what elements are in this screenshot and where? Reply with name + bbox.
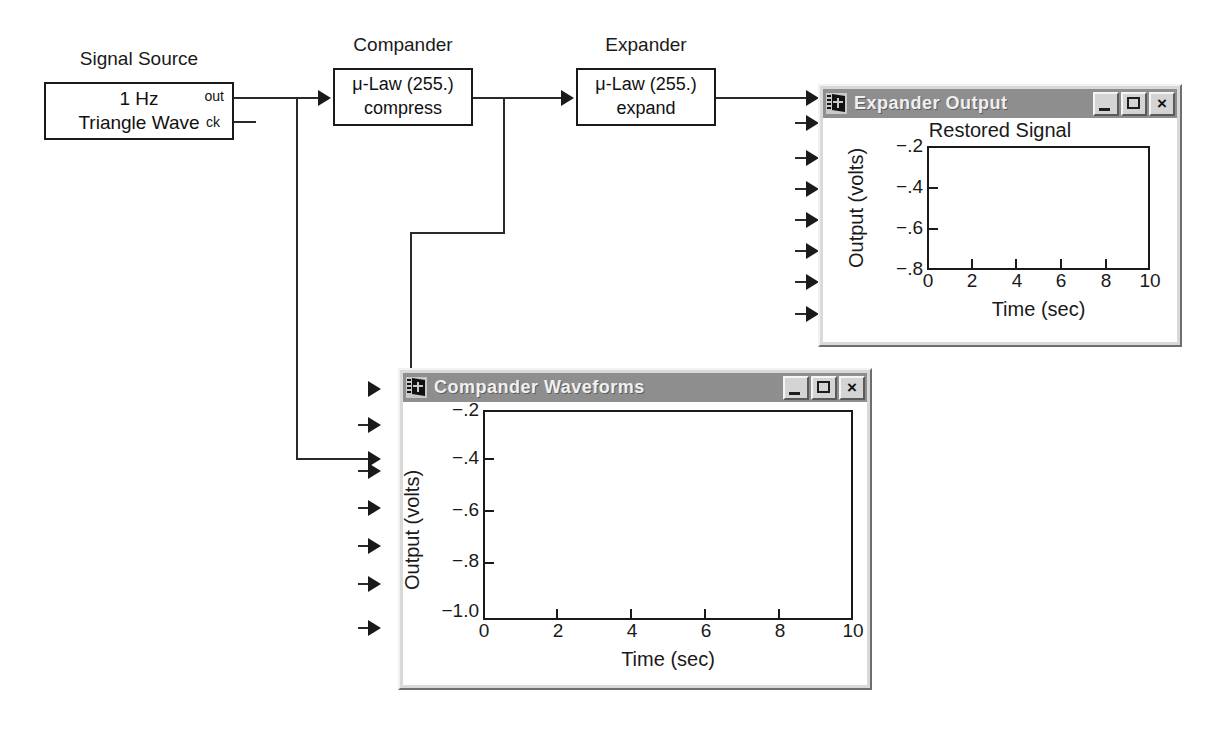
expander-line1: μ-Law (255.) xyxy=(578,74,714,95)
close-icon: × xyxy=(841,378,863,398)
compander-caption: Compander xyxy=(333,34,473,56)
signal-source-caption: Signal Source xyxy=(44,48,234,70)
canvas: Signal Source 1 Hz Triangle Wave out ck … xyxy=(0,0,1224,749)
window-compander-waveforms[interactable]: Compander Waveforms × −.2 −.4 −.6 xyxy=(398,368,872,690)
maximize-button[interactable] xyxy=(1121,92,1147,116)
plot-restored-signal: Restored Signal −.2 −.4 −.6 −.8 xyxy=(823,118,1177,342)
xtick-mark xyxy=(1015,259,1017,268)
signal-source-line2: Triangle Wave xyxy=(46,112,232,134)
wire-compander-branch-vertical-1 xyxy=(503,97,505,232)
xtick-label: 2 xyxy=(538,620,578,642)
plot-client-area-compander-waveforms: −.2 −.4 −.6 −.8 −1.0 0 2 xyxy=(403,402,867,685)
arrowhead-compander-window-in-1 xyxy=(368,381,381,397)
xtick-mark xyxy=(971,259,973,268)
titlebar-compander-waveforms[interactable]: Compander Waveforms × xyxy=(403,373,867,402)
expander-caption: Expander xyxy=(576,34,716,56)
ytick-label: −.2 xyxy=(417,402,479,421)
xtick-label: 8 xyxy=(760,620,800,642)
wire-compander-to-expander xyxy=(473,97,563,99)
plot-compander-waveforms: −.2 −.4 −.6 −.8 −1.0 0 2 xyxy=(403,402,867,685)
x-axis-label: Time (sec) xyxy=(927,298,1150,321)
y-axis-label: Output (volts) xyxy=(845,148,868,268)
cw-input-arrow-6 xyxy=(368,538,381,554)
xtick-label: 2 xyxy=(952,270,992,292)
app-window-icon xyxy=(826,93,847,114)
close-button[interactable]: × xyxy=(1149,92,1175,116)
axes-box xyxy=(483,410,853,620)
app-window-icon xyxy=(406,377,427,398)
window-inner: Expander Output × Restored Signal −.2 xyxy=(823,89,1177,342)
ytick-mark xyxy=(929,228,938,230)
ytick-label: −.8 xyxy=(417,550,479,572)
xtick-mark xyxy=(1060,259,1062,268)
compander-line2: compress xyxy=(335,98,471,119)
x-axis-label: Time (sec) xyxy=(483,648,853,671)
window-title-compander-waveforms: Compander Waveforms xyxy=(434,377,783,398)
y-axis-label: Output (volts) xyxy=(403,470,424,590)
xtick-label: 0 xyxy=(464,620,504,642)
axes-box xyxy=(927,146,1150,270)
ytick-label: −.2 xyxy=(863,135,923,157)
wire-compander-branch-horizontal xyxy=(410,232,505,234)
xtick-label: 4 xyxy=(612,620,652,642)
xtick-mark xyxy=(556,609,558,618)
xtick-mark xyxy=(1105,259,1107,268)
ytick-label: −.6 xyxy=(417,499,479,521)
wire-source-branch-to-compander-window xyxy=(296,458,370,460)
expander-block[interactable]: μ-Law (255.) expand xyxy=(576,68,716,126)
port-ck-label: ck xyxy=(206,114,220,130)
cw-input-arrow-7 xyxy=(368,576,381,592)
ytick-mark xyxy=(929,187,938,189)
xtick-label: 10 xyxy=(833,620,867,642)
plot-client-area-expander-output: Restored Signal −.2 −.4 −.6 −.8 xyxy=(823,118,1177,342)
ytick-label: −1.0 xyxy=(411,600,479,622)
window-expander-output[interactable]: Expander Output × Restored Signal −.2 xyxy=(818,84,1182,347)
titlebar-buttons: × xyxy=(783,376,865,400)
xtick-label: 8 xyxy=(1086,270,1126,292)
arrowhead-expander-in xyxy=(561,90,574,106)
cw-input-arrow-3 xyxy=(368,417,381,433)
cw-input-arrow-4 xyxy=(368,463,381,479)
minimize-button[interactable] xyxy=(1093,92,1119,116)
expander-line2: expand xyxy=(578,98,714,119)
xtick-mark xyxy=(704,609,706,618)
xtick-label: 6 xyxy=(686,620,726,642)
ytick-mark xyxy=(485,458,494,460)
cw-input-arrow-8 xyxy=(368,620,381,636)
ytick-label: −.6 xyxy=(863,217,923,239)
xtick-label: 4 xyxy=(997,270,1037,292)
wire-ck-stub xyxy=(234,121,256,123)
close-icon: × xyxy=(1151,94,1173,114)
ytick-mark xyxy=(485,510,494,512)
signal-source-block[interactable]: 1 Hz Triangle Wave out ck xyxy=(44,82,234,140)
ytick-mark xyxy=(485,562,494,564)
compander-block[interactable]: μ-Law (255.) compress xyxy=(333,68,473,126)
ytick-label: −.4 xyxy=(417,447,479,469)
xtick-label: 0 xyxy=(908,270,948,292)
compander-line1: μ-Law (255.) xyxy=(335,74,471,95)
xtick-label: 10 xyxy=(1130,270,1170,292)
window-inner: Compander Waveforms × −.2 −.4 −.6 xyxy=(403,373,867,685)
wire-expander-to-output-window xyxy=(716,97,810,99)
arrowhead-compander-in xyxy=(318,90,331,106)
wire-source-branch-vertical xyxy=(296,97,298,458)
port-out-label: out xyxy=(205,88,224,104)
close-button[interactable]: × xyxy=(839,376,865,400)
titlebar-buttons: × xyxy=(1093,92,1175,116)
wire-compander-branch-vertical-2 xyxy=(410,232,412,388)
xtick-label: 6 xyxy=(1041,270,1081,292)
maximize-button[interactable] xyxy=(811,376,837,400)
titlebar-expander-output[interactable]: Expander Output × xyxy=(823,89,1177,118)
cw-input-arrow-5 xyxy=(368,500,381,516)
window-title-expander-output: Expander Output xyxy=(854,93,1093,114)
ytick-label: −.4 xyxy=(863,176,923,198)
wire-source-to-compander xyxy=(234,97,320,99)
xtick-mark xyxy=(630,609,632,618)
minimize-button[interactable] xyxy=(783,376,809,400)
xtick-mark xyxy=(778,609,780,618)
